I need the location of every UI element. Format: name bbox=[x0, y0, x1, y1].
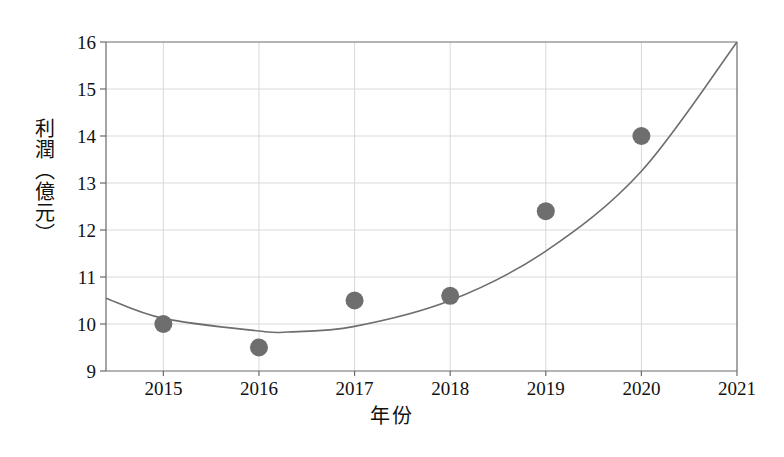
y-tick-label: 11 bbox=[60, 268, 96, 287]
trend-curve bbox=[106, 42, 737, 333]
x-tick-label: 2018 bbox=[431, 379, 469, 398]
x-tick-label: 2017 bbox=[336, 379, 374, 398]
y-tick-label: 16 bbox=[60, 33, 96, 52]
y-tick-label: 14 bbox=[60, 127, 96, 146]
plot-canvas bbox=[0, 0, 784, 457]
y-tick-label: 9 bbox=[60, 362, 96, 381]
x-tick-label: 2015 bbox=[144, 379, 182, 398]
gridlines bbox=[106, 42, 737, 371]
y-tick-label: 10 bbox=[60, 315, 96, 334]
y-tick-label: 12 bbox=[60, 221, 96, 240]
y-tick-label: 13 bbox=[60, 174, 96, 193]
x-tick-label: 2016 bbox=[240, 379, 278, 398]
plot-frame bbox=[106, 42, 737, 371]
x-tick-label: 2021 bbox=[718, 379, 756, 398]
x-tick-label: 2020 bbox=[622, 379, 660, 398]
y-tick-label: 15 bbox=[60, 80, 96, 99]
x-axis-title: 年份 bbox=[0, 400, 784, 429]
scatter-chart: 利潤（億元） 年份 161514131211109 20152016201720… bbox=[0, 0, 784, 457]
x-tick-label: 2019 bbox=[527, 379, 565, 398]
data-points bbox=[154, 127, 650, 357]
y-axis-title: 利潤（億元） bbox=[24, 118, 54, 244]
